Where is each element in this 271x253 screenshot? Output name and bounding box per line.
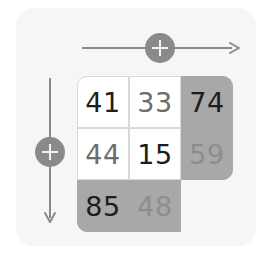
grid-cell-r1c1[interactable]: 41 — [77, 76, 129, 128]
grid-cell-r2c2[interactable]: 15 — [129, 128, 181, 180]
horizontal-plus-knob[interactable] — [145, 33, 175, 63]
arrow-right-icon — [228, 41, 242, 55]
plus-icon — [159, 40, 161, 56]
grid-cell-r3c2[interactable]: 48 — [129, 180, 181, 232]
arrow-down-icon — [43, 211, 57, 225]
grid-cell-r1c2[interactable]: 33 — [129, 76, 181, 128]
grid-cell-r3c1[interactable]: 85 — [77, 180, 129, 232]
widget-canvas: 4133744415598548 — [0, 0, 271, 253]
plus-icon — [49, 144, 51, 160]
grid-cell-r2c3[interactable]: 59 — [181, 128, 233, 180]
grid-cell-r1c3[interactable]: 74 — [181, 76, 233, 128]
grid-cell-empty — [181, 180, 233, 232]
number-grid: 4133744415598548 — [77, 76, 233, 232]
grid-cell-r2c1[interactable]: 44 — [77, 128, 129, 180]
vertical-plus-knob[interactable] — [35, 137, 65, 167]
